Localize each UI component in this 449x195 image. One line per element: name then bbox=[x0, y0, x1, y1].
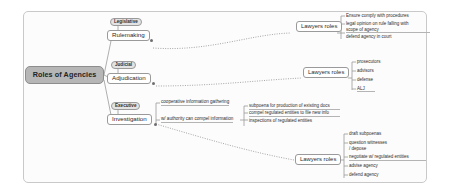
branch-node-adjudication[interactable]: Adjudication bbox=[107, 73, 151, 84]
lawyers-roles-node-investigation[interactable]: Lawyers roles bbox=[295, 154, 341, 165]
connector-rulemaking-lawyers bbox=[153, 33, 291, 49]
lawyers-roles-node-adjudication[interactable]: Lawyers roles bbox=[303, 67, 349, 78]
branch-node-investigation[interactable]: Investigation bbox=[107, 114, 152, 125]
chip-legislative[interactable]: Legislative bbox=[110, 18, 142, 26]
connector-root-rulemaking bbox=[104, 36, 112, 75]
chip-executive[interactable]: Executive bbox=[111, 102, 140, 110]
leaf-investigation-5: advise agency bbox=[349, 163, 378, 168]
leaf-investigation-4: negotiate w/ regulated entities bbox=[349, 154, 426, 161]
leaf-adjudication-3: defense bbox=[357, 77, 373, 82]
leaf-adjudication-2: advisors bbox=[357, 68, 374, 73]
note-compel-information: w/ authority can compel information bbox=[161, 116, 233, 123]
connector-compel-leaves bbox=[240, 106, 248, 126]
chip-judicial[interactable]: Judicial bbox=[111, 61, 136, 69]
connector-investigation-midnotes bbox=[156, 103, 160, 124]
branch-dot-adjudication[interactable] bbox=[152, 82, 155, 85]
leaf-compel-3: inspections of regulated entities bbox=[249, 118, 312, 123]
leaf-compel-2: compel regulated entities to file new in… bbox=[249, 110, 340, 117]
leaf-investigation-6: defend agency bbox=[349, 172, 379, 177]
connector-lawyers2-leaves bbox=[348, 62, 356, 90]
leaf-adjudication-4: ALJ bbox=[357, 86, 375, 93]
connector-lawyers3-leaves bbox=[340, 134, 348, 178]
branch-node-rulemaking[interactable]: Rulemaking bbox=[107, 30, 150, 41]
leaf-investigation-3: / depose bbox=[349, 146, 366, 151]
leaf-compel-1: subpoena for production of existing docs bbox=[249, 103, 340, 110]
note-cooperative-gathering: cooperative information gathering bbox=[161, 99, 229, 106]
leaf-rulemaking-1: Ensure comply with procedures bbox=[346, 13, 409, 18]
root-node[interactable]: Roles of Agencies bbox=[25, 66, 104, 84]
leaf-rulemaking-3: scope of agency bbox=[346, 27, 430, 34]
leaf-rulemaking-4: defend agency in court bbox=[346, 34, 392, 39]
branch-dot-investigation[interactable] bbox=[154, 123, 157, 126]
lawyers-roles-node-rulemaking[interactable]: Lawyers roles bbox=[296, 21, 342, 32]
connector-investigation-lawyers bbox=[156, 124, 294, 160]
branch-dot-rulemaking[interactable] bbox=[150, 39, 153, 42]
mindmap-canvas: Roles of Agencies Legislative Rulemaking… bbox=[0, 0, 449, 195]
connector-adjudication-lawyers bbox=[156, 78, 302, 86]
leaf-investigation-1: draft subpoenas bbox=[349, 131, 381, 136]
leaf-adjudication-1: prosecutors bbox=[357, 59, 381, 64]
